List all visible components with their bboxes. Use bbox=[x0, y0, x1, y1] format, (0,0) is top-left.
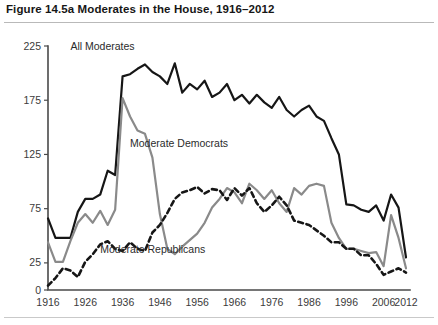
series-line-moderate-republicans bbox=[48, 187, 406, 286]
y-tick-label: 0 bbox=[35, 284, 41, 296]
y-tick-label: 175 bbox=[23, 94, 41, 106]
title-divider bbox=[4, 22, 434, 23]
y-tick-label: 225 bbox=[23, 40, 41, 52]
x-tick-label: 2012 bbox=[394, 296, 418, 308]
y-tick-label: 25 bbox=[29, 256, 41, 268]
x-tick-label: 1956 bbox=[185, 296, 209, 308]
x-tick-label: 1946 bbox=[148, 296, 172, 308]
y-tick-label: 125 bbox=[23, 148, 41, 160]
figure-container: Figure 14.5a Moderates in the House, 191… bbox=[0, 0, 438, 325]
annotation-label: Moderate Republicans bbox=[100, 243, 205, 255]
annotation-label: Moderate Democrats bbox=[130, 137, 228, 149]
x-tick-label: 1916 bbox=[36, 296, 60, 308]
y-axis-ticks: 02575125175225 bbox=[23, 40, 48, 296]
y-tick-label: 75 bbox=[29, 202, 41, 214]
x-tick-label: 1986 bbox=[297, 296, 321, 308]
line-chart: 02575125175225 1916192619361946195619661… bbox=[0, 24, 438, 317]
x-tick-label: 1996 bbox=[335, 296, 359, 308]
x-tick-label: 1936 bbox=[111, 296, 135, 308]
x-tick-label: 2006 bbox=[372, 296, 396, 308]
figure-title: Figure 14.5a Moderates in the House, 191… bbox=[6, 3, 275, 15]
x-tick-label: 1966 bbox=[223, 296, 247, 308]
annotation-label: All Moderates bbox=[70, 40, 134, 52]
x-tick-label: 1926 bbox=[74, 296, 98, 308]
series-line-all-moderates bbox=[48, 63, 406, 257]
bottom-divider bbox=[4, 317, 434, 318]
x-tick-label: 1976 bbox=[260, 296, 284, 308]
x-axis-ticks: 1916192619361946195619661976198619962006… bbox=[36, 296, 418, 308]
